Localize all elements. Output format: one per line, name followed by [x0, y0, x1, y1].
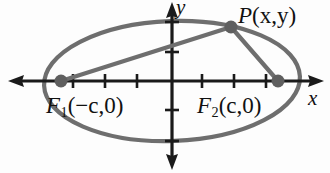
y-axis-bottom-arrow — [166, 154, 178, 170]
label-point-p-coords: (x,y) — [252, 3, 296, 28]
point-P-marker — [225, 21, 238, 34]
segment-p-f2 — [231, 27, 278, 81]
label-point-p: P(x,y) — [238, 4, 296, 27]
point-F2-marker — [272, 75, 285, 88]
label-focus-2-name: F — [197, 93, 211, 118]
label-focus-1-subscript: 1 — [60, 104, 68, 120]
ellipse-figure: P(x,y) F1(−c,0) F2(c,0) x y — [0, 0, 330, 173]
y-axis — [165, 2, 179, 170]
label-focus-1-name: F — [46, 93, 60, 118]
label-focus-2-coords: (c,0) — [219, 93, 262, 118]
label-focus-2: F2(c,0) — [197, 94, 261, 119]
segment-f1-p — [61, 27, 231, 81]
axis-label-y: y — [176, 0, 185, 18]
point-F1-marker — [55, 75, 68, 88]
x-axis-left-arrow — [8, 75, 24, 87]
label-point-p-name: P — [238, 3, 252, 28]
label-focus-1: F1(−c,0) — [46, 94, 123, 119]
label-focus-2-subscript: 2 — [211, 104, 219, 120]
axis-label-x: x — [308, 88, 317, 109]
label-focus-1-coords: (−c,0) — [68, 93, 124, 118]
